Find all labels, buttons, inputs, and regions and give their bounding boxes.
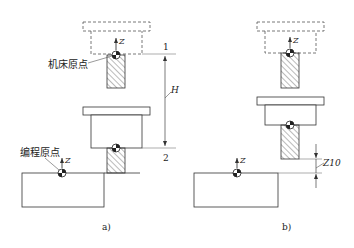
level-2-label: 2 — [163, 153, 169, 163]
spindle-home-dashed — [257, 22, 324, 53]
spindle-home-dashed — [83, 22, 150, 54]
workpiece — [194, 173, 278, 207]
tool-upper — [281, 53, 299, 88]
machine-origin-label: 机床原点 — [48, 58, 88, 70]
tool-origin-icon — [286, 121, 294, 129]
diagram-canvas: Z 机床原点 1 H 2 — [0, 0, 354, 248]
level-1-label: 1 — [163, 42, 169, 52]
program-origin-icon — [58, 169, 66, 177]
panel-a: Z 机床原点 1 H 2 — [20, 22, 179, 232]
tool-origin-icon — [112, 144, 120, 152]
z10-dimension-label: Z10 — [322, 158, 341, 168]
program-origin-icon — [233, 169, 241, 177]
panel-a-caption: a) — [102, 222, 111, 232]
workpiece — [22, 173, 104, 207]
panel-b-caption: b) — [282, 222, 291, 232]
z-axis-label: Z — [118, 37, 125, 46]
program-origin-label: 编程原点 — [20, 146, 60, 158]
tool-lower — [281, 125, 299, 159]
panel-b: Z Z Z10 b) — [194, 22, 341, 232]
tool-upper — [107, 55, 125, 88]
machine-origin-icon — [286, 49, 294, 57]
z-axis-label: Z — [64, 156, 71, 165]
leader-line — [45, 158, 59, 170]
spindle-lower — [83, 107, 150, 148]
z-axis-label: Z — [239, 156, 246, 165]
machine-origin-icon — [112, 51, 120, 59]
h-dimension-label: H — [170, 85, 179, 95]
z-axis-label: Z — [292, 36, 299, 45]
